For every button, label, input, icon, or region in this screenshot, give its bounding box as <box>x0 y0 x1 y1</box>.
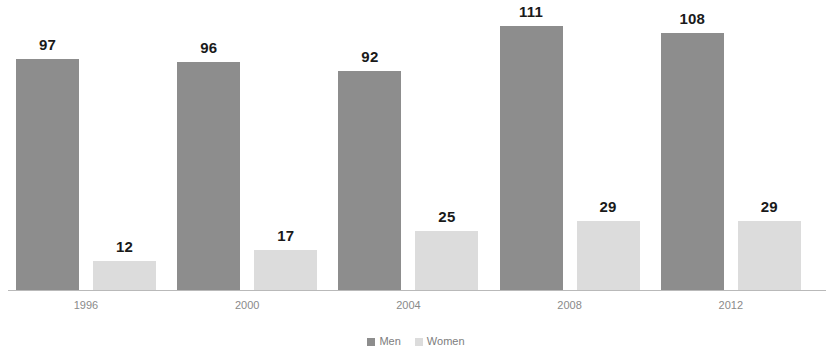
category-label-1996: 1996 <box>16 300 156 311</box>
bar-value-men-1996: 97 <box>16 37 79 52</box>
bar-women-2000 <box>254 250 317 290</box>
legend-item-men[interactable]: Men <box>367 336 400 347</box>
legend-swatch-men-icon <box>367 338 375 346</box>
bar-value-men-2008: 111 <box>500 4 563 19</box>
bar-women-2008 <box>577 221 640 290</box>
legend-label-women: Women <box>427 336 465 347</box>
bar-women-2012 <box>738 221 801 290</box>
bar-value-men-2004: 92 <box>338 49 401 64</box>
bar-value-women-2004: 25 <box>415 209 478 224</box>
category-label-2012: 2012 <box>661 300 801 311</box>
category-label-2008: 2008 <box>500 300 640 311</box>
bar-men-2000 <box>177 62 240 290</box>
bar-men-2012 <box>661 33 724 290</box>
bar-men-2004 <box>338 71 401 290</box>
bar-women-2004 <box>415 231 478 290</box>
bar-value-women-2012: 29 <box>738 199 801 214</box>
chart-legend: Men Women <box>0 336 832 347</box>
bar-men-1996 <box>16 59 79 290</box>
category-label-2004: 2004 <box>338 300 478 311</box>
bar-value-women-1996: 12 <box>93 239 156 254</box>
bar-men-2008 <box>500 26 563 290</box>
bar-value-men-2000: 96 <box>177 40 240 55</box>
bar-value-men-2012: 108 <box>661 11 724 26</box>
x-axis-line <box>8 290 826 291</box>
category-label-2000: 2000 <box>177 300 317 311</box>
bar-value-women-2008: 29 <box>577 199 640 214</box>
plot-area: 9712961792251112910829 <box>0 0 832 292</box>
bar-chart: 9712961792251112910829 19962000200420082… <box>0 0 832 358</box>
legend-swatch-women-icon <box>415 338 423 346</box>
legend-label-men: Men <box>379 336 400 347</box>
legend-item-women[interactable]: Women <box>415 336 465 347</box>
bar-women-1996 <box>93 261 156 290</box>
bar-value-women-2000: 17 <box>254 228 317 243</box>
